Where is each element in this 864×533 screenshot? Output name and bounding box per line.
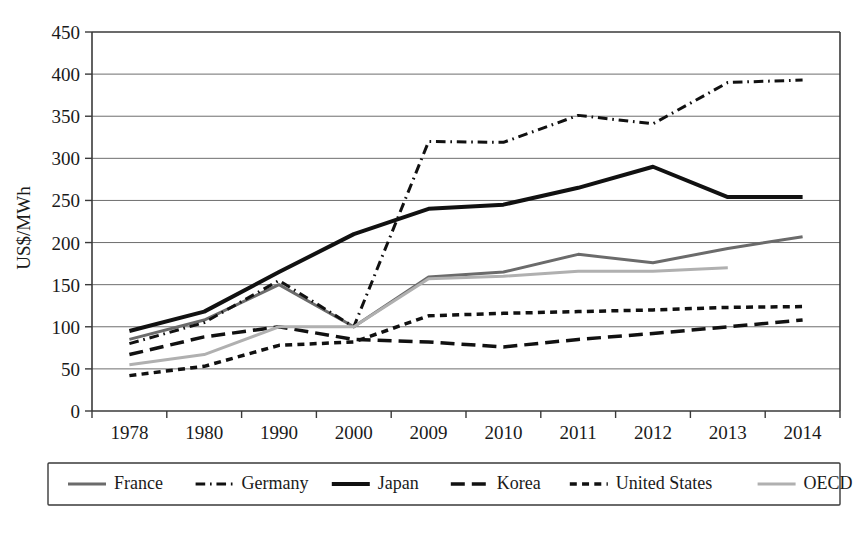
series-line-france [129, 237, 802, 340]
series-line-germany [129, 80, 802, 344]
y-tick-label: 200 [52, 233, 81, 254]
legend-label-united-states[interactable]: United States [616, 473, 713, 493]
series-line-korea [129, 320, 802, 355]
gridlines [92, 74, 840, 369]
legend-box [48, 463, 840, 505]
x-tick-label: 1980 [185, 422, 223, 443]
legend-label-korea[interactable]: Korea [497, 473, 541, 493]
y-tick-label: 350 [52, 106, 81, 127]
x-axis-ticks: 1978198019902000200920102011201220132014 [92, 411, 840, 443]
x-tick-label: 2014 [784, 422, 823, 443]
x-tick-label: 2010 [484, 422, 522, 443]
y-tick-label: 250 [52, 190, 81, 211]
y-axis-ticks: 050100150200250300350400450 [52, 22, 93, 422]
x-tick-label: 1990 [260, 422, 298, 443]
chart-figure: 050100150200250300350400450 197819801990… [0, 0, 864, 533]
x-tick-label: 2013 [709, 422, 747, 443]
x-tick-label: 1978 [110, 422, 148, 443]
x-tick-label: 2012 [634, 422, 672, 443]
y-tick-label: 0 [71, 401, 81, 422]
y-tick-label: 300 [52, 148, 81, 169]
y-axis-title: US$/MWh [13, 186, 34, 270]
y-tick-label: 150 [52, 275, 81, 296]
series-lines [129, 80, 802, 376]
legend-items: FranceGermanyJapanKoreaUnited StatesOECD [68, 473, 853, 493]
y-tick-label: 400 [52, 64, 81, 85]
legend-label-germany[interactable]: Germany [242, 473, 309, 493]
legend-label-france[interactable]: France [114, 473, 163, 493]
y-tick-label: 50 [61, 359, 80, 380]
x-tick-label: 2011 [560, 422, 597, 443]
y-tick-label: 450 [52, 22, 81, 43]
x-tick-label: 2009 [410, 422, 448, 443]
y-tick-label: 100 [52, 317, 81, 338]
series-line-united-states [129, 307, 802, 376]
legend-label-japan[interactable]: Japan [378, 473, 419, 493]
line-chart: 050100150200250300350400450 197819801990… [0, 0, 864, 533]
x-tick-label: 2000 [335, 422, 373, 443]
legend-label-oecd[interactable]: OECD [804, 473, 853, 493]
